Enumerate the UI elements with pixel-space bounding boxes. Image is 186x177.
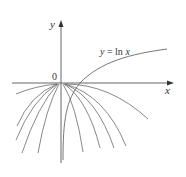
y-axis-arrow-icon	[59, 20, 64, 27]
family-curve-r4	[64, 84, 100, 148]
x-axis-label: x	[164, 84, 170, 96]
graph-figure: y x 0 y = ln x	[0, 0, 186, 177]
axes	[12, 24, 170, 163]
y-axis-label: y	[49, 18, 55, 30]
curve-label-eq: = ln	[104, 46, 125, 57]
curve-family-right	[63, 84, 148, 152]
curve-label: y = ln x	[99, 46, 130, 57]
family-curve-l2	[17, 84, 57, 126]
family-curve-l5	[38, 84, 59, 153]
ln-curve	[63, 49, 167, 160]
family-curve-r1	[65, 84, 148, 119]
origin-label: 0	[52, 71, 57, 82]
curve-family-left	[16, 84, 59, 153]
curve-label-x: x	[124, 46, 130, 57]
